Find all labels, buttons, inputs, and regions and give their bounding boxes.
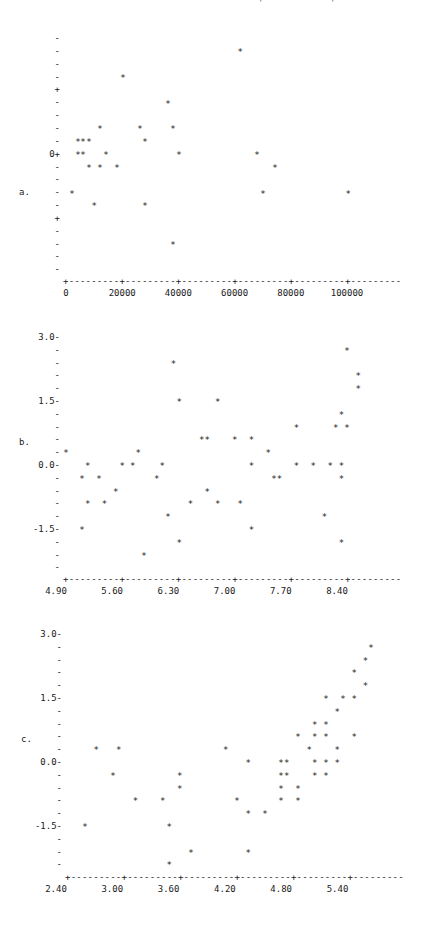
- y-tick: 3.0-: [0, 630, 62, 639]
- x-tick-label: 3.60: [158, 885, 180, 894]
- y-tick: -: [0, 835, 62, 844]
- data-point-star: *: [177, 784, 182, 793]
- data-point-star: *: [245, 848, 250, 857]
- data-point-star: *: [323, 695, 328, 704]
- y-tick: -: [0, 848, 62, 857]
- data-point-star: *: [323, 733, 328, 742]
- x-tick-label: 5.40: [327, 885, 349, 894]
- data-point-star: *: [335, 759, 340, 768]
- data-point-star: *: [110, 772, 115, 781]
- data-point-star: *: [312, 759, 317, 768]
- data-point-star: *: [82, 823, 87, 832]
- data-point-star: *: [245, 759, 250, 768]
- data-point-star: *: [306, 746, 311, 755]
- x-tick-label: 4.20: [214, 885, 236, 894]
- data-point-star: *: [312, 720, 317, 729]
- data-point-star: *: [323, 772, 328, 781]
- data-point-star: *: [295, 784, 300, 793]
- panel-c-scatter: c. 3.0-----1.5-----0.0------1.5---- +---…: [0, 0, 421, 928]
- data-point-star: *: [262, 810, 267, 819]
- data-point-star: *: [312, 733, 317, 742]
- data-point-star: *: [284, 772, 289, 781]
- data-point-star: *: [335, 708, 340, 717]
- data-point-star: *: [93, 746, 98, 755]
- y-tick: 1.5-: [0, 694, 62, 703]
- data-point-star: *: [351, 733, 356, 742]
- y-tick: -: [0, 860, 62, 869]
- x-axis-line: +---------+---------+---------+---------…: [65, 873, 404, 882]
- y-tick: -: [0, 745, 62, 754]
- data-point-star: *: [323, 720, 328, 729]
- data-point-star: *: [278, 784, 283, 793]
- data-point-star: *: [278, 797, 283, 806]
- data-point-star: *: [340, 695, 345, 704]
- data-point-star: *: [335, 746, 340, 755]
- data-point-star: *: [116, 746, 121, 755]
- data-point-star: *: [284, 759, 289, 768]
- data-point-star: *: [363, 682, 368, 691]
- data-point-star: *: [351, 695, 356, 704]
- y-tick: -: [0, 720, 62, 729]
- data-point-star: *: [295, 733, 300, 742]
- data-point-star: *: [368, 644, 373, 653]
- x-tick-label: 4.80: [270, 885, 292, 894]
- data-point-star: *: [295, 797, 300, 806]
- data-point-star: *: [363, 656, 368, 665]
- data-point-star: *: [323, 759, 328, 768]
- data-point-star: *: [234, 797, 239, 806]
- y-tick: -: [0, 796, 62, 805]
- data-point-star: *: [223, 746, 228, 755]
- y-tick: -: [0, 681, 62, 690]
- y-tick: -: [0, 656, 62, 665]
- data-point-star: *: [177, 772, 182, 781]
- data-point-star: *: [312, 772, 317, 781]
- y-tick: -: [0, 707, 62, 716]
- y-tick: -: [0, 668, 62, 677]
- data-point-star: *: [133, 797, 138, 806]
- data-point-star: *: [278, 759, 283, 768]
- y-tick: -1.5-: [0, 822, 62, 831]
- data-point-star: *: [188, 848, 193, 857]
- y-tick: -: [0, 809, 62, 818]
- y-tick: -: [0, 771, 62, 780]
- data-point-star: *: [278, 772, 283, 781]
- y-tick: 0.0-: [0, 758, 62, 767]
- y-tick: -: [0, 643, 62, 652]
- x-tick-label: 2.40: [45, 885, 67, 894]
- data-point-star: *: [167, 823, 172, 832]
- y-tick: -: [0, 732, 62, 741]
- data-point-star: *: [245, 810, 250, 819]
- data-point-star: *: [351, 669, 356, 678]
- data-point-star: *: [160, 797, 165, 806]
- x-tick-label: 3.00: [101, 885, 123, 894]
- data-point-star: *: [167, 861, 172, 870]
- y-tick: -: [0, 784, 62, 793]
